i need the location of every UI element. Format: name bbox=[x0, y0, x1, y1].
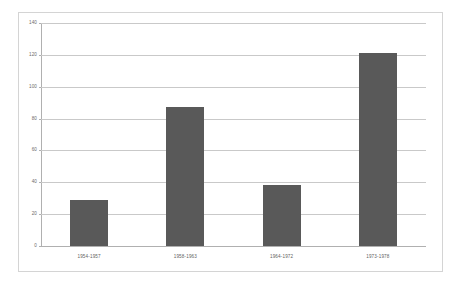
gridline-zero-baseline: 0 bbox=[41, 246, 426, 247]
bar-slot-1: 1954-1957 bbox=[41, 23, 137, 246]
bar-1954-1957[interactable] bbox=[70, 200, 108, 246]
y-tick-label-60: 60 bbox=[32, 148, 37, 153]
bar-chart-figure: 140 120 100 80 60 40 20 0 bbox=[18, 12, 443, 272]
y-tick-label-100: 100 bbox=[29, 84, 37, 89]
x-category-label-4: 1973-1978 bbox=[366, 255, 389, 260]
y-tick-label-140: 140 bbox=[29, 21, 37, 26]
bar-slot-2: 1958-1963 bbox=[137, 23, 233, 246]
bar-1958-1963[interactable] bbox=[166, 107, 204, 246]
tick-mark-0 bbox=[39, 246, 41, 247]
bar-1964-1972[interactable] bbox=[263, 185, 301, 246]
y-tick-label-120: 120 bbox=[29, 53, 37, 58]
x-category-label-2: 1958-1963 bbox=[174, 255, 197, 260]
bar-slot-4: 1973-1978 bbox=[330, 23, 426, 246]
bar-1973-1978[interactable] bbox=[359, 53, 397, 246]
bar-slot-3: 1964-1972 bbox=[234, 23, 330, 246]
x-category-label-3: 1964-1972 bbox=[270, 255, 293, 260]
y-tick-label-80: 80 bbox=[32, 116, 37, 121]
y-tick-label-40: 40 bbox=[32, 180, 37, 185]
y-tick-label-20: 20 bbox=[32, 212, 37, 217]
plot-area: 140 120 100 80 60 40 20 0 bbox=[41, 23, 426, 246]
y-tick-label-0: 0 bbox=[34, 244, 37, 249]
x-category-label-1: 1954-1957 bbox=[77, 255, 100, 260]
